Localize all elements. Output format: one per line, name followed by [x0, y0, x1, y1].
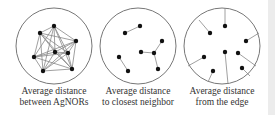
distance-line [154, 53, 158, 69]
agnor-point [74, 39, 78, 43]
caption-line-1: Average distance [177, 86, 267, 97]
distance-line [125, 26, 140, 33]
agnor-point [117, 55, 121, 59]
agnor-point [240, 66, 244, 70]
agnor-point [152, 51, 156, 55]
panel-closest-neighbor [100, 8, 176, 84]
agnor-point [66, 51, 70, 55]
distance-line [225, 52, 228, 84]
distance-line [246, 33, 259, 41]
distance-line [54, 26, 55, 52]
caption-line-2: from the edge [177, 97, 267, 108]
agnor-point [202, 55, 206, 59]
distance-line [119, 57, 128, 71]
agnor-point [139, 50, 143, 54]
distance-line [199, 20, 210, 33]
distance-line [72, 41, 76, 69]
agnor-point [126, 69, 130, 73]
cell-outline-circle [16, 8, 92, 84]
agnor-point [160, 39, 164, 43]
panel-distance-from-edge [184, 8, 260, 84]
caption-line-1: Average distance [93, 86, 183, 97]
agnor-point [138, 24, 142, 28]
agnor-point [53, 50, 57, 54]
cell-outline-circle [100, 8, 176, 84]
caption-between-agnors: Average distance between AgNORs [9, 86, 99, 108]
agnor-point [223, 50, 227, 54]
agnor-point [223, 24, 227, 28]
agnor-point [38, 31, 42, 35]
caption-closest-neighbor: Average distance to closest neighbor [93, 86, 183, 108]
agnor-point [32, 55, 36, 59]
distance-line [188, 57, 204, 66]
agnor-point [244, 39, 248, 43]
agnor-point [123, 31, 127, 35]
distance-line [40, 33, 43, 71]
distance-line [34, 33, 40, 57]
cell-outline-circle [184, 8, 260, 84]
agnor-point [208, 31, 212, 35]
panel-between-agnors [16, 8, 92, 84]
side-strip [268, 0, 275, 115]
agnor-point [211, 69, 215, 73]
caption-line-1: Average distance [9, 86, 99, 97]
caption-line-2: between AgNORs [9, 97, 99, 108]
agnor-point [41, 69, 45, 73]
agnor-point [70, 67, 74, 71]
distance-line [238, 53, 256, 66]
distance-line [43, 69, 72, 71]
agnor-point [236, 51, 240, 55]
agnor-point [156, 67, 160, 71]
caption-line-2: to closest neighbor [93, 97, 183, 108]
caption-distance-from-edge: Average distance from the edge [177, 86, 267, 108]
agnor-point [52, 24, 56, 28]
